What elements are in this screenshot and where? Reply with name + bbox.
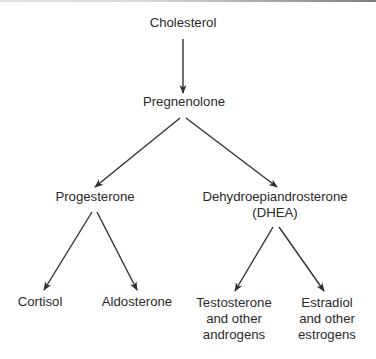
node-label: Cortisol — [18, 294, 63, 310]
node-label-line3: estrogens — [298, 327, 356, 343]
node-label-line2: and other — [196, 311, 272, 327]
node-testosterone: Testosterone and other androgens — [196, 295, 272, 343]
node-label-line2: and other — [298, 311, 356, 327]
node-label: Progesterone — [55, 189, 134, 205]
node-label: Testosterone — [196, 295, 272, 311]
node-label: Aldosterone — [102, 294, 172, 310]
arrow-pregnenolone-to-progesterone — [95, 118, 180, 187]
node-aldosterone: Aldosterone — [102, 294, 172, 310]
node-label: Pregnenolone — [143, 94, 225, 110]
node-label: Dehydroepiandrosterone — [202, 189, 347, 205]
node-progesterone: Progesterone — [55, 189, 134, 205]
node-label-line3: androgens — [196, 327, 272, 343]
node-label: Estradiol — [298, 295, 356, 311]
node-cholesterol: Cholesterol — [150, 15, 217, 31]
node-label: Cholesterol — [150, 15, 217, 31]
arrow-dhea-to-estradiol — [279, 227, 324, 291]
arrow-pregnenolone-to-dhea — [186, 118, 277, 187]
arrow-progesterone-to-aldosterone — [97, 212, 137, 290]
node-dhea: Dehydroepiandrosterone (DHEA) — [202, 189, 347, 221]
arrow-progesterone-to-cortisol — [44, 212, 92, 290]
arrow-dhea-to-testosterone — [235, 227, 273, 291]
node-cortisol: Cortisol — [18, 294, 63, 310]
node-label-abbreviation: (DHEA) — [202, 205, 347, 221]
node-pregnenolone: Pregnenolone — [143, 94, 225, 110]
node-estradiol: Estradiol and other estrogens — [298, 295, 356, 343]
